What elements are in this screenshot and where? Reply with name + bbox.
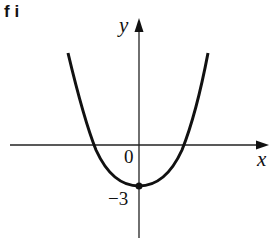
x-axis-label: x xyxy=(257,147,266,172)
origin-label: 0 xyxy=(124,146,134,168)
y-axis-arrow-icon xyxy=(135,18,144,32)
y-axis-label: y xyxy=(119,13,128,38)
vertex-point xyxy=(136,183,143,190)
y-intercept-label: −3 xyxy=(108,188,128,210)
graph-canvas xyxy=(0,0,270,239)
parabola-curve xyxy=(68,53,208,186)
